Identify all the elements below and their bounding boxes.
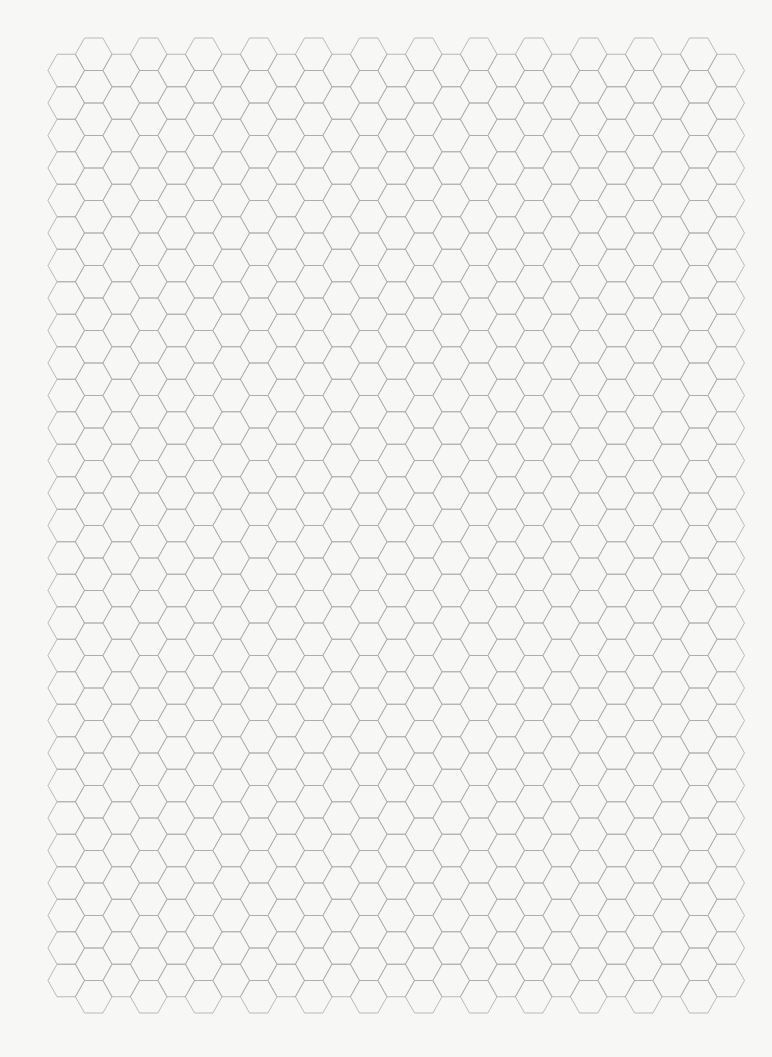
hexagon-grid: [0, 0, 772, 1057]
graph-paper-page: Hexagonal graph paper: [0, 0, 772, 1057]
hexagon-grid-lines: [48, 38, 745, 1013]
